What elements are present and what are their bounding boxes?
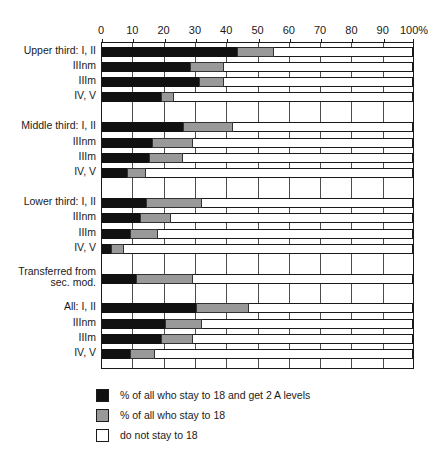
bar-row [102,138,413,148]
plot-area [101,42,414,369]
bar-segment-stay-to-18 [130,349,155,359]
bar-segment-stay-and-2a-levels [102,274,136,284]
bar-segment-do-not-stay [102,244,413,254]
bar-segment-stay-and-2a-levels [102,122,183,132]
x-tick-10 [133,39,134,43]
x-tick-0 [102,39,103,43]
x-tick-label-80: 80 [345,24,357,36]
bar-row [102,77,413,87]
x-tick-100 [413,39,414,43]
bar-row [102,229,413,239]
bar-segment-stay-and-2a-levels [102,153,149,163]
bar-row [102,334,413,344]
bar-segment-stay-to-18 [199,77,224,87]
bar-segment-stay-to-18 [136,274,192,284]
bar-segment-stay-and-2a-levels [102,349,130,359]
category-label: Upper third: I, II [0,45,96,56]
category-label: IV, V [0,347,96,358]
bar-segment-stay-to-18 [140,213,171,223]
x-tick-label-50: 50 [251,24,263,36]
stacked-bar-chart: 0102030405060708090100% Upper third: I, … [0,0,448,455]
bar-segment-stay-to-18 [237,47,275,57]
category-label: IV, V [0,90,96,101]
x-tick-label-20: 20 [157,24,169,36]
bar-row [102,303,413,313]
category-label: IIInm [0,317,96,328]
category-label: IIIm [0,227,96,238]
bar-segment-stay-to-18 [130,229,158,239]
x-axis-tick-labels: 0102030405060708090100% [0,24,448,40]
bar-segment-stay-to-18 [183,122,233,132]
x-tick-90 [384,39,385,43]
category-label: Lower third: I, II [0,196,96,207]
x-tick-label-60: 60 [283,24,295,36]
bar-segment-stay-to-18 [152,138,193,148]
x-tick-label-90: 90 [377,24,389,36]
bar-segment-stay-and-2a-levels [102,334,161,344]
chart-legend: % of all who stay to 18 and get 2 A leve… [96,386,426,446]
bar-segment-stay-to-18 [127,168,146,178]
legend-item-do-not-stay: do not stay to 18 [96,426,426,444]
legend-swatch-gray [96,409,109,422]
bar-segment-stay-and-2a-levels [102,198,146,208]
category-label: IIIm [0,151,96,162]
x-tick-50 [259,39,260,43]
bar-row [102,62,413,72]
bar-segment-stay-and-2a-levels [102,47,237,57]
x-tick-label-70: 70 [314,24,326,36]
x-tick-label-40: 40 [220,24,232,36]
category-label: IIIm [0,75,96,86]
bar-segment-stay-and-2a-levels [102,303,196,313]
bar-row [102,47,413,57]
bar-segment-stay-to-18 [146,198,202,208]
bar-row [102,153,413,163]
bar-segment-stay-and-2a-levels [102,229,130,239]
bar-row [102,168,413,178]
bar-row [102,244,413,254]
legend-item-stay-to-18: % of all who stay to 18 [96,406,426,424]
x-tick-20 [165,39,166,43]
bar-segment-stay-and-2a-levels [102,244,111,254]
x-tick-80 [352,39,353,43]
category-label: IIInm [0,136,96,147]
category-label: IV, V [0,242,96,253]
bar-segment-stay-to-18 [161,92,174,102]
bar-segment-stay-to-18 [196,303,249,313]
x-tick-label-0: 0 [98,24,104,36]
bar-row [102,274,413,284]
bar-row [102,319,413,329]
x-tick-label-100: 100% [400,24,428,36]
category-label: Transferred from sec. mod. [0,266,96,288]
bar-segment-stay-to-18 [111,244,124,254]
x-tick-30 [196,39,197,43]
category-label: All: I, II [0,301,96,312]
bar-row [102,92,413,102]
bar-row [102,213,413,223]
x-tick-40 [227,39,228,43]
bar-segment-stay-and-2a-levels [102,319,165,329]
bar-segment-stay-to-18 [149,153,183,163]
bar-segment-stay-and-2a-levels [102,138,152,148]
bar-segment-stay-and-2a-levels [102,77,199,87]
category-label: IIIm [0,332,96,343]
category-label: Middle third: I, II [0,120,96,131]
bar-segment-stay-and-2a-levels [102,213,140,223]
bar-segment-stay-and-2a-levels [102,168,127,178]
category-label: IIInm [0,211,96,222]
category-label: IIInm [0,60,96,71]
bar-row [102,198,413,208]
bar-segment-do-not-stay [102,168,413,178]
legend-item-stay-and-2a-levels: % of all who stay to 18 and get 2 A leve… [96,386,426,404]
legend-swatch-white [96,429,109,442]
legend-label-gray: % of all who stay to 18 [120,409,225,421]
bar-row [102,122,413,132]
bar-segment-stay-and-2a-levels [102,92,161,102]
legend-label-white: do not stay to 18 [120,429,198,441]
category-label: IV, V [0,166,96,177]
x-tick-label-30: 30 [189,24,201,36]
bar-row [102,349,413,359]
bar-segment-stay-to-18 [190,62,224,72]
x-tick-70 [321,39,322,43]
x-tick-60 [290,39,291,43]
bar-segment-stay-and-2a-levels [102,62,190,72]
